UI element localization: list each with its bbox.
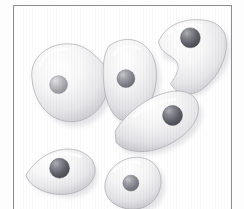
cell-bottom-left (26, 149, 95, 194)
nucleus-cell-middle-right (163, 106, 183, 126)
nucleus-cell-top-right (180, 28, 200, 48)
figure-root: Micrograph illustration of amoeboid cell… (0, 0, 244, 209)
cell-bottom-middle (105, 157, 161, 209)
micrograph-plate-frame (13, 5, 232, 209)
nucleus-cell-top-left (50, 76, 68, 94)
cell-field-canvas (14, 6, 231, 209)
nucleus-cell-top-middle (117, 70, 135, 88)
cell-top-left (32, 44, 109, 122)
nucleus-cell-bottom-middle (123, 175, 139, 191)
nucleus-cell-bottom-left (50, 158, 70, 178)
